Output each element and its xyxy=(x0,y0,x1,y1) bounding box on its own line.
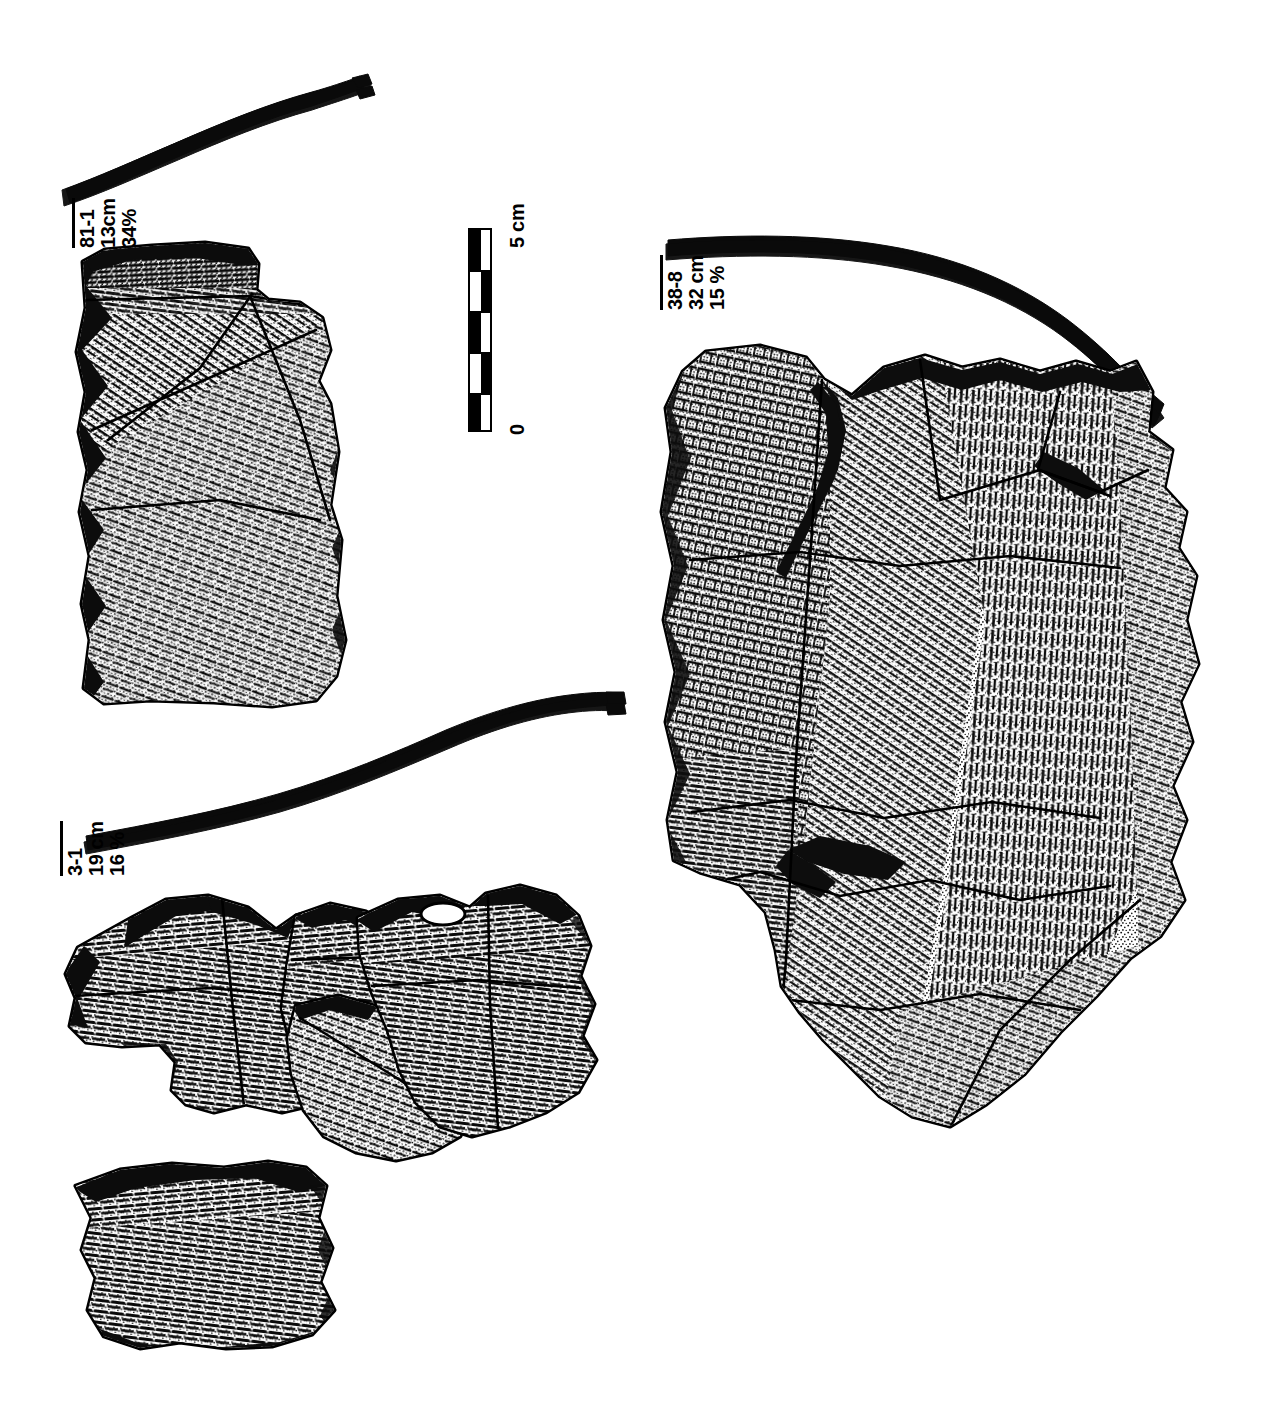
specimen-catalog-38-8: 38-8 xyxy=(665,255,686,310)
specimen-percent-3-1: 16 % xyxy=(107,821,128,876)
rim-profile-81-1 xyxy=(62,74,375,206)
specimen-diameter-81-1: 13cm xyxy=(98,198,119,248)
specimen-caption-3-1: 3-1 19 cm 16 % xyxy=(60,821,127,876)
caption-rule-38-8 xyxy=(660,255,663,310)
sherd-body-81-1 xyxy=(70,240,360,720)
scale-min-label: 0 xyxy=(506,424,529,435)
specimen-catalog-3-1: 3-1 xyxy=(65,821,86,876)
specimen-percent-38-8: 15 % xyxy=(707,255,728,310)
scale-max-label: 5 cm xyxy=(506,204,529,248)
specimen-catalog-81-1: 81-1 xyxy=(77,198,98,248)
sherd-body-38-8 xyxy=(655,340,1215,1150)
sherd-cluster-3-1 xyxy=(60,880,615,1370)
specimen-caption-81-1: 81-1 13cm 34% xyxy=(72,198,139,248)
specimen-caption-38-8: 38-8 32 cm 15 % xyxy=(660,255,727,310)
specimen-diameter-3-1: 19 cm xyxy=(86,821,107,876)
rim-profile-38-8 xyxy=(666,236,1164,428)
caption-rule-3-1 xyxy=(60,821,63,876)
plate-artwork xyxy=(0,0,1278,1428)
scale-bar xyxy=(468,228,492,432)
caption-rule-81-1 xyxy=(72,198,75,248)
rim-profile-3-1 xyxy=(84,692,626,854)
specimen-percent-81-1: 34% xyxy=(119,198,140,248)
specimen-diameter-38-8: 32 cm xyxy=(686,255,707,310)
illustration-plate: 81-1 13cm 34% 3-1 19 cm 16 % 38-8 32 cm … xyxy=(0,0,1278,1428)
